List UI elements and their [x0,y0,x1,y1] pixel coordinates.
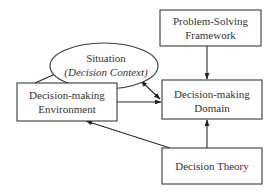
edge-theory-to-environment [86,121,170,148]
framework-label-line2: Framework [185,29,236,41]
domain-label-line1: Decision-making [174,88,250,100]
environment-label-line1: Decision-making [29,89,105,101]
environment-label-line2: Environment [38,103,95,115]
domain-label-line2: Domain [194,102,230,114]
framework-label-line1: Problem-Solving [173,15,249,27]
node-decision-theory: Decision Theory [162,148,262,184]
node-decision-making-environment: Decision-making Environment [17,83,117,121]
node-problem-solving-framework: Problem-Solving Framework [160,10,261,46]
theory-label: Decision Theory [175,160,249,172]
situation-label-line1: Situation [86,52,126,64]
diagram-canvas: Problem-Solving Framework Situation (Dec… [0,0,279,193]
situation-label-line2: (Decision Context) [64,66,148,79]
node-situation: Situation (Decision Context) [50,43,158,89]
node-decision-making-domain: Decision-making Domain [162,80,262,119]
edge-situation-domain-bidirectional [141,81,160,99]
